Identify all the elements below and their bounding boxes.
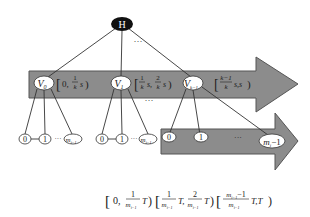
svg-text:2: 2 bbox=[193, 190, 197, 199]
svg-text:): ) bbox=[148, 194, 152, 208]
node-v0: V0 bbox=[34, 76, 54, 90]
svg-text:mi−1: mi−1 bbox=[229, 201, 240, 210]
diagram-canvas: H ··· ··· V0 V1 Vk−1 [ 0, 1 k s ) [ 1 k bbox=[0, 0, 310, 217]
node-v1-sub: 1 bbox=[121, 84, 124, 90]
top-ellipsis: ··· bbox=[134, 36, 143, 46]
svg-text:[: [ bbox=[134, 77, 139, 92]
svg-text:1: 1 bbox=[140, 74, 144, 82]
svg-text:): ) bbox=[85, 78, 89, 91]
svg-text:0,: 0, bbox=[113, 195, 121, 206]
svg-text:1: 1 bbox=[73, 74, 77, 82]
svg-text:[: [ bbox=[105, 193, 110, 209]
svg-text:s: s bbox=[163, 80, 166, 89]
svg-text:): ) bbox=[168, 78, 172, 91]
svg-text:[: [ bbox=[155, 193, 160, 209]
leaf-label: 0 bbox=[100, 135, 104, 144]
svg-text:k−1: k−1 bbox=[220, 74, 231, 82]
svg-text:[: [ bbox=[214, 77, 219, 92]
leaf-dots: ··· bbox=[234, 133, 242, 142]
node-vk-1: Vk−1 bbox=[183, 76, 203, 90]
svg-text:1: 1 bbox=[131, 190, 135, 199]
bottom-formula: [ 0, 1 mi−1 T ) [ 1 mi−1 T, 2 mi−1 T ) [… bbox=[105, 190, 272, 210]
leaf-group-left: 0 1 ··· mi−1 bbox=[19, 134, 82, 145]
leaf-sub: i−1 bbox=[71, 140, 77, 145]
svg-text:1: 1 bbox=[167, 190, 171, 199]
svg-text:mi−1−1: mi−1−1 bbox=[226, 190, 245, 200]
svg-text:s: s bbox=[80, 80, 83, 89]
leaf-suffix: −1 bbox=[271, 137, 281, 147]
leaf-label: 1 bbox=[43, 135, 47, 144]
svg-text:0,: 0, bbox=[62, 79, 69, 89]
leaf-dots: ··· bbox=[131, 135, 138, 143]
root-node: H bbox=[111, 17, 133, 31]
svg-text:[: [ bbox=[56, 77, 61, 92]
svg-text:mi−1: mi−1 bbox=[188, 201, 199, 210]
leaf-group-middle: 0 1 ··· mi−1 bbox=[96, 134, 157, 145]
svg-text:mi−1: mi−1 bbox=[162, 201, 173, 210]
leaf-label: 1 bbox=[199, 133, 203, 142]
leaf-label: 1 bbox=[120, 135, 124, 144]
node-vk-1-sub: k−1 bbox=[190, 85, 198, 90]
leaf-sub: i−1 bbox=[146, 140, 152, 145]
svg-text:2: 2 bbox=[156, 74, 160, 82]
leaf-label: 0 bbox=[167, 133, 171, 142]
svg-text:s,s: s,s bbox=[234, 80, 242, 89]
leaf-dots: ··· bbox=[55, 135, 62, 143]
root-label: H bbox=[118, 19, 125, 30]
svg-text:): ) bbox=[210, 194, 214, 208]
node-v0-sub: 0 bbox=[44, 84, 47, 90]
mid-ellipsis: ··· bbox=[145, 95, 154, 105]
root-edges bbox=[48, 28, 191, 77]
svg-text:T,T: T,T bbox=[251, 196, 264, 206]
svg-text:[: [ bbox=[216, 193, 221, 209]
svg-text:): ) bbox=[268, 194, 272, 208]
svg-text:): ) bbox=[247, 78, 251, 91]
svg-text:T,: T, bbox=[178, 196, 185, 206]
hierarchy-diagram: H ··· ··· V0 V1 Vk−1 [ 0, 1 k s ) [ 1 k bbox=[0, 0, 310, 217]
svg-text:mi−1: mi−1 bbox=[126, 201, 137, 210]
leaf-label: 0 bbox=[23, 135, 27, 144]
node-v1: V1 bbox=[111, 76, 131, 90]
svg-text:mi−1: mi−1 bbox=[263, 137, 280, 148]
svg-text:s,: s, bbox=[147, 80, 152, 89]
